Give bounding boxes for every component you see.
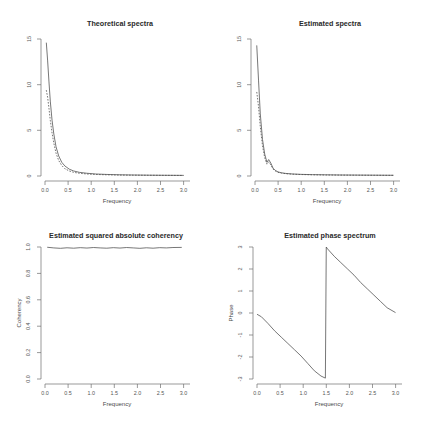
x-tick: 0.0 <box>41 390 49 396</box>
x-tick: 1.0 <box>297 187 305 193</box>
x-tick: 1.0 <box>87 390 95 396</box>
x-tick: 2.5 <box>157 187 165 193</box>
y-tick: 0.0 <box>25 375 31 383</box>
panel-title: Estimated phase spectrum <box>284 231 375 240</box>
x-tick: 3.0 <box>180 187 188 193</box>
series-lines <box>47 247 182 248</box>
x-tick: 2.0 <box>346 390 354 396</box>
x-tick: 1.5 <box>111 187 119 193</box>
x-tick: 0.5 <box>64 390 72 396</box>
y-tick: -2 <box>237 355 243 360</box>
y-tick: 0 <box>237 312 243 315</box>
y-tick: 2 <box>237 268 243 271</box>
series-lines <box>257 247 396 378</box>
x-axis-label: Frequency <box>103 401 131 407</box>
y-tick: -3 <box>237 377 243 382</box>
y-tick: 0.8 <box>25 270 31 278</box>
y-tick: 0 <box>26 175 32 178</box>
y-tick: 0 <box>236 175 242 178</box>
y-tick: 15 <box>26 36 32 42</box>
panel-title: Estimated squared absolute coherency <box>49 231 183 240</box>
x-axis-label: Frequency <box>313 198 341 204</box>
x-tick: 2.5 <box>369 390 377 396</box>
x-tick: 2.0 <box>134 187 142 193</box>
y-tick: 0.4 <box>25 322 31 330</box>
figure-grid: Theoretical spectra 0 5 10 15 0.0 0.5 1.… <box>0 0 424 427</box>
y-tick: 15 <box>236 36 242 42</box>
y-tick: 0.6 <box>25 296 31 304</box>
y-tick: -1 <box>237 333 243 338</box>
y-axis-label: Coherency <box>16 298 22 327</box>
y-tick: 5 <box>236 129 242 132</box>
x-tick: 0.5 <box>274 187 282 193</box>
y-tick: 0.2 <box>25 349 31 357</box>
x-tick: 2.0 <box>134 390 142 396</box>
x-tick: 2.5 <box>367 187 375 193</box>
x-tick: 3.0 <box>390 187 398 193</box>
x-tick: 0.5 <box>64 187 72 193</box>
x-axis-label: Frequency <box>315 401 343 407</box>
y-axis-label: Phase <box>228 304 234 322</box>
y-tick: 10 <box>26 82 32 88</box>
x-tick: 2.0 <box>344 187 352 193</box>
panel-title: Estimated spectra <box>299 19 362 28</box>
x-tick: 1.0 <box>299 390 307 396</box>
y-tick: 1 <box>237 290 243 293</box>
series-lines <box>257 45 394 175</box>
x-tick: 1.5 <box>321 187 329 193</box>
panel-estimated-squared-absolute-coherency: Estimated squared absolute coherency 0.0… <box>0 214 212 427</box>
x-tick: 0.0 <box>251 187 259 193</box>
x-tick: 1.5 <box>111 390 119 396</box>
x-tick: 2.5 <box>157 390 165 396</box>
panel-estimated-spectra: Estimated spectra 0 5 10 15 0.0 0.5 1.0 … <box>212 0 424 213</box>
x-tick: 0.0 <box>41 187 49 193</box>
y-tick: 1.0 <box>25 243 31 251</box>
x-tick: 1.5 <box>323 390 331 396</box>
x-tick: 3.0 <box>180 390 188 396</box>
x-tick: 0.0 <box>253 390 261 396</box>
y-tick: 3 <box>237 246 243 249</box>
panel-estimated-phase-spectrum: Estimated phase spectrum -3 -2 -1 0 1 2 … <box>212 214 424 427</box>
y-tick: 10 <box>236 82 242 88</box>
x-tick: 3.0 <box>392 390 400 396</box>
x-tick: 1.0 <box>87 187 95 193</box>
x-axis-label: Frequency <box>103 198 131 204</box>
series-lines <box>46 43 183 176</box>
x-tick: 0.5 <box>276 390 284 396</box>
y-tick: 5 <box>26 129 32 132</box>
panel-theoretical-spectra: Theoretical spectra 0 5 10 15 0.0 0.5 1.… <box>0 0 212 213</box>
panel-title: Theoretical spectra <box>87 19 154 28</box>
